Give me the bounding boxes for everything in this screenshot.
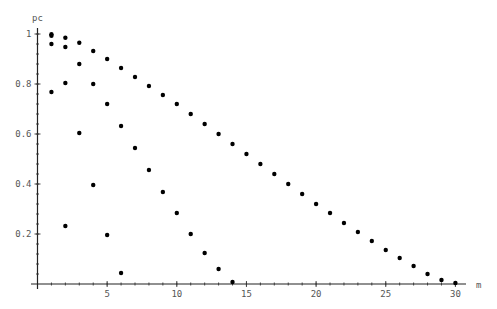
axes (31, 28, 466, 289)
data-point (119, 124, 123, 128)
data-point (384, 248, 388, 252)
series-1 (49, 32, 457, 285)
data-point (370, 239, 374, 243)
data-point (77, 62, 81, 66)
data-point (272, 172, 276, 176)
y-tick-label: 1 (26, 29, 31, 39)
y-ticks: 0.20.40.60.81 (15, 29, 40, 239)
data-point (189, 232, 193, 236)
scatter-chart: 51015202530 0.20.40.60.81 m pc (0, 0, 497, 309)
data-point (425, 272, 429, 276)
data-point (258, 162, 262, 166)
data-point (133, 146, 137, 150)
data-point (105, 57, 109, 61)
x-tick-label: 5 (104, 289, 109, 299)
data-point (397, 256, 401, 260)
data-point (91, 183, 95, 187)
data-point (342, 221, 346, 225)
data-point (356, 230, 360, 234)
data-points (49, 32, 457, 285)
data-point (411, 264, 415, 268)
y-tick-label: 0.6 (15, 129, 31, 139)
data-point (230, 280, 234, 284)
data-point (314, 202, 318, 206)
data-point (63, 45, 67, 49)
data-point (105, 102, 109, 106)
data-point (105, 233, 109, 237)
data-point (49, 34, 53, 38)
data-point (63, 81, 67, 85)
data-point (63, 36, 67, 40)
x-tick-label: 25 (380, 289, 391, 299)
x-tick-label: 20 (311, 289, 322, 299)
data-point (161, 190, 165, 194)
y-tick-label: 0.4 (15, 179, 31, 189)
data-point (175, 102, 179, 106)
data-point (63, 224, 67, 228)
data-point (49, 42, 53, 46)
x-tick-label: 10 (171, 289, 182, 299)
data-point (244, 152, 248, 156)
x-axis-label: m (476, 280, 481, 290)
data-point (119, 271, 123, 275)
series-4 (49, 34, 67, 229)
data-point (91, 49, 95, 53)
data-point (328, 211, 332, 215)
data-point (300, 192, 304, 196)
x-tick-label: 30 (450, 289, 461, 299)
x-tick-label: 15 (241, 289, 252, 299)
data-point (77, 131, 81, 135)
data-point (216, 132, 220, 136)
data-point (230, 142, 234, 146)
data-point (147, 168, 151, 172)
data-point (202, 122, 206, 126)
data-point (133, 75, 137, 79)
data-point (202, 251, 206, 255)
data-point (49, 90, 53, 94)
series-3 (49, 81, 123, 275)
data-point (216, 267, 220, 271)
series-2 (49, 42, 234, 284)
data-point (175, 211, 179, 215)
y-tick-label: 0.8 (15, 79, 31, 89)
data-point (91, 82, 95, 86)
y-tick-label: 0.2 (15, 229, 31, 239)
data-point (119, 66, 123, 70)
data-point (147, 84, 151, 88)
data-point (77, 41, 81, 45)
y-axis-label: pc (32, 13, 43, 23)
data-point (453, 281, 457, 285)
data-point (189, 112, 193, 116)
data-point (439, 278, 443, 282)
data-point (161, 93, 165, 97)
data-point (286, 182, 290, 186)
